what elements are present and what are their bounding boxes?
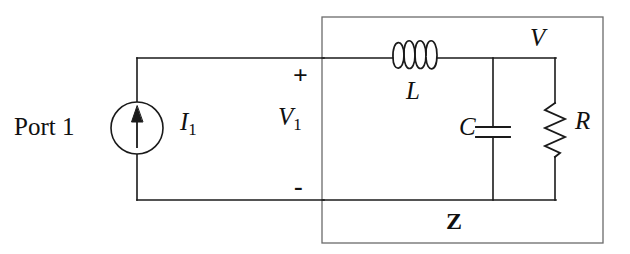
capacitor-label: C [459,114,476,139]
figure-canvas: Port 1 I1 + V1 - L C R V Z [0,0,630,254]
port-voltage-symbol: V [278,103,293,130]
polarity-minus-label: - [294,174,303,200]
port-voltage-label: V1 [278,104,302,133]
inductor-coil [393,41,437,69]
resistor-label: R [575,108,590,133]
port-label: Port 1 [14,114,74,139]
inductor-label: L [406,78,420,103]
polarity-plus-label: + [293,63,308,89]
port-voltage-subscript: 1 [293,115,302,134]
node-voltage-label: V [530,25,545,50]
source-current-label: I1 [180,109,197,138]
resistor-zigzag [545,103,565,157]
source-current-subscript: 1 [188,120,197,139]
impedance-block-label: Z [446,209,462,233]
